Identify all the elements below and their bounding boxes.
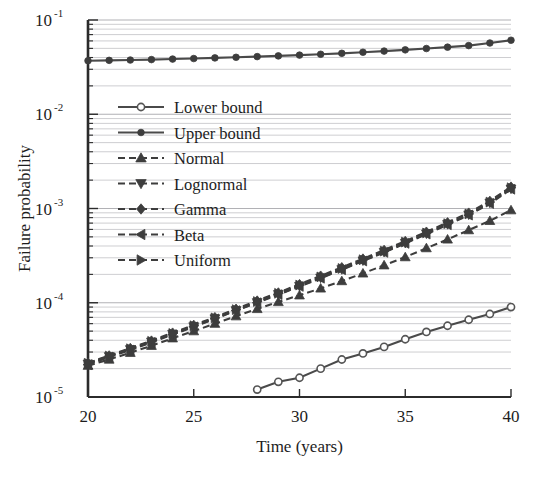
data-point-marker	[358, 268, 368, 277]
y-tick-label-exponent: -4	[54, 290, 64, 302]
data-point-marker	[127, 57, 134, 64]
data-point-marker	[465, 316, 472, 323]
data-point-marker	[337, 276, 347, 285]
legend-marker	[137, 255, 146, 265]
y-tick-label-base: 10	[35, 11, 52, 30]
data-point-marker	[317, 365, 324, 372]
y-tick-label-base: 10	[35, 388, 52, 407]
x-tick-label: 35	[397, 407, 414, 426]
data-point-marker	[422, 243, 432, 252]
legend-label: Normal	[174, 149, 225, 168]
data-point-marker	[507, 303, 514, 310]
y-tick-label-base: 10	[35, 105, 52, 124]
data-point-marker	[338, 356, 345, 363]
x-tick-label: 25	[185, 407, 202, 426]
series-lower-bound	[254, 303, 515, 393]
y-tick-label-base: 10	[35, 294, 52, 313]
y-axis-title: Failure probability	[15, 145, 34, 273]
data-point-marker	[423, 328, 430, 335]
legend-marker	[138, 129, 145, 136]
legend-marker	[136, 229, 145, 239]
legend-item-lognormal[interactable]: Lognormal	[118, 175, 248, 194]
data-point-marker	[233, 54, 240, 61]
data-point-marker	[169, 56, 176, 63]
legend-marker	[137, 103, 144, 110]
legend-label: Upper bound	[174, 124, 261, 143]
data-point-marker	[402, 336, 409, 343]
data-point-marker	[506, 205, 516, 214]
data-point-marker	[148, 56, 155, 63]
data-point-marker	[465, 42, 472, 49]
data-point-marker	[212, 55, 219, 62]
legend-label: Uniform	[174, 251, 231, 270]
legend-item-gamma[interactable]: Gamma	[118, 200, 227, 219]
data-series	[83, 37, 516, 393]
data-point-marker	[487, 40, 494, 47]
data-point-marker	[402, 47, 409, 54]
data-point-marker	[106, 57, 113, 64]
data-point-marker	[359, 350, 366, 357]
data-point-marker	[379, 260, 389, 269]
legend-item-beta[interactable]: Beta	[118, 226, 205, 245]
data-point-marker	[275, 378, 282, 385]
data-point-marker	[486, 310, 493, 317]
data-point-marker	[508, 37, 515, 44]
data-point-marker	[254, 53, 261, 60]
legend-label: Beta	[174, 226, 205, 245]
legend-item-uniform[interactable]: Uniform	[118, 251, 231, 270]
failure-probability-chart: 10-510-410-310-210-12025303540 Time (yea…	[0, 0, 542, 482]
data-point-marker	[381, 48, 388, 55]
data-point-marker	[360, 49, 367, 56]
data-point-marker	[444, 44, 451, 51]
y-tick-label-exponent: -3	[54, 196, 64, 208]
x-axis-title: Time (years)	[256, 437, 343, 456]
legend-item-upper-bound[interactable]: Upper bound	[118, 124, 261, 143]
x-tick-label: 30	[291, 407, 308, 426]
chart-legend[interactable]: Lower boundUpper boundNormalLognormalGam…	[118, 98, 263, 270]
data-point-marker	[443, 235, 453, 244]
legend-label: Lognormal	[174, 175, 248, 194]
data-point-marker	[400, 252, 410, 261]
y-tick-label-exponent: -1	[54, 7, 63, 19]
data-point-marker	[254, 386, 261, 393]
data-point-marker	[275, 53, 282, 60]
data-point-marker	[190, 55, 197, 62]
legend-label: Lower bound	[174, 98, 263, 117]
data-point-marker	[296, 374, 303, 381]
y-tick-label-base: 10	[35, 200, 52, 219]
data-point-marker	[85, 57, 92, 64]
legend-label: Gamma	[174, 200, 227, 219]
data-point-marker	[423, 45, 430, 52]
x-tick-label: 40	[503, 407, 520, 426]
x-tick-label: 20	[80, 407, 97, 426]
data-point-marker	[338, 50, 345, 57]
data-point-marker	[381, 343, 388, 350]
data-point-marker	[317, 51, 324, 58]
y-tick-label-exponent: -2	[54, 101, 63, 113]
y-tick-label-exponent: -5	[54, 384, 64, 396]
data-point-marker	[296, 52, 303, 59]
data-point-marker	[444, 322, 451, 329]
chart-figure: 10-510-410-310-210-12025303540 Time (yea…	[0, 0, 542, 482]
